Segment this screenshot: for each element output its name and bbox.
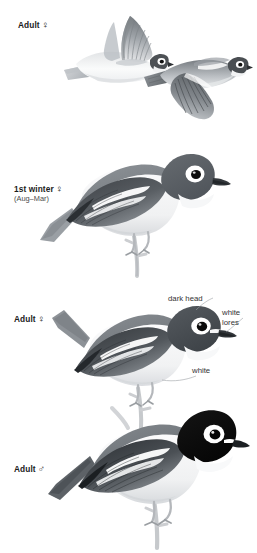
label-adult-female-perched: Adult♀ <box>14 314 45 325</box>
upper-branch-stub <box>112 408 128 428</box>
label-first-winter-months: (Aug–Mar) <box>14 194 49 203</box>
eye-highlight <box>199 323 202 325</box>
annotation-white-lores-line1: white <box>222 308 240 318</box>
annotation-white-lores-line2: lores <box>222 318 240 328</box>
bill <box>247 65 253 70</box>
eye-highlight <box>193 171 196 173</box>
sex-symbol-female: ♀ <box>54 183 63 194</box>
field-guide-plate: Adult♀ 1st winter♀ (Aug–Mar) Adult♀ Adul… <box>0 0 257 553</box>
eye-highlight <box>211 431 214 434</box>
wing-far <box>104 22 120 61</box>
label-adult-male-perched: Adult♂ <box>14 464 45 475</box>
sex-symbol-female: ♀ <box>40 19 49 30</box>
label-text: Adult <box>14 314 36 324</box>
eye <box>197 322 207 331</box>
figure-flight-wings-lowered <box>142 47 254 129</box>
eye <box>210 430 221 440</box>
label-text: Adult <box>18 20 40 30</box>
figure-perched-first-winter <box>38 128 228 278</box>
eye <box>191 170 201 179</box>
eye <box>238 63 242 67</box>
annotation-white-lores: white lores <box>222 308 240 327</box>
sex-symbol-male: ♂ <box>36 463 45 474</box>
label-text: 1st winter <box>14 184 54 194</box>
label-text: Adult <box>14 464 36 474</box>
perch-branch <box>126 236 146 276</box>
sex-symbol-female: ♀ <box>36 313 45 324</box>
figure-perched-adult-male <box>46 396 242 548</box>
annotation-white-underparts: white <box>192 366 210 376</box>
bill <box>232 440 250 448</box>
label-adult-female-flight: Adult♀ <box>18 20 49 31</box>
annotation-dark-head: dark head <box>168 294 203 304</box>
